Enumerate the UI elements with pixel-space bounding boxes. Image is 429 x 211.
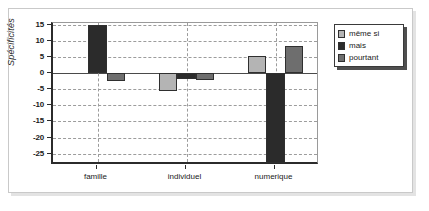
x-tick-mark [185,165,186,169]
y-tick-label: 5 [0,51,44,60]
y-tick-label: 10 [0,35,44,44]
legend-label: pourtant [349,53,378,63]
y-tick-label: -10 [0,100,44,109]
bar-famille-mais [88,25,106,73]
gridline-x-individuel [187,23,188,162]
y-tick-mark [47,88,51,89]
x-tick-mark [96,165,97,169]
bar-numerique-mais [266,73,284,163]
chart-legend: même simaispourtant [334,24,404,67]
legend-item-pourtant[interactable]: pourtant [338,52,400,64]
y-tick-mark [47,137,51,138]
x-axis-label-individuel: individuel [168,172,201,181]
bar-individuel-même-si [159,73,177,91]
y-tick-mark [47,56,51,57]
y-tick-label: -20 [0,132,44,141]
legend-item-mais[interactable]: mais [338,40,400,52]
bar-numerique-pourtant [285,46,303,73]
y-tick-mark [47,40,51,41]
x-axis-label-famille: famille [84,172,107,181]
bar-numerique-même-si [248,56,266,73]
bar-famille-pourtant [107,73,125,81]
bar-individuel-mais [177,73,195,79]
x-tick-mark [274,165,275,169]
y-tick-label: 0 [0,68,44,77]
legend-label: même si [349,29,379,39]
y-tick-label: 15 [0,19,44,28]
y-tick-label: -15 [0,116,44,125]
y-tick-mark [47,24,51,25]
y-tick-mark [47,72,51,73]
legend-item-même-si[interactable]: même si [338,28,400,40]
y-tick-mark [47,153,51,154]
y-tick-mark [47,104,51,105]
figure-root: Spécificités 151050-5-10-15-20-25 famill… [0,0,429,211]
legend-label: mais [349,41,366,51]
bar-individuel-pourtant [196,73,214,80]
x-axis-label-numerique: numerique [255,172,293,181]
y-tick-mark [47,120,51,121]
legend-swatch-icon [338,42,345,50]
legend-swatch-icon [338,30,345,38]
y-tick-label: -5 [0,84,44,93]
plot-area [51,22,318,164]
y-tick-label: -25 [0,148,44,157]
legend-swatch-icon [338,54,345,62]
